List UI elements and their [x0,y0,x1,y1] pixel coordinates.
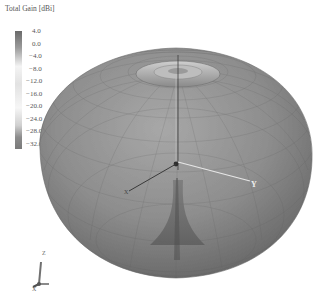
orientation-triad: Z X [32,250,49,292]
radiation-pattern-plot: X Y Z X [0,0,335,292]
y-axis-label: Y [251,180,257,189]
x-axis-label: X [124,189,129,195]
triad-z-label: Z [42,250,46,256]
triad-x-label: X [32,286,37,292]
